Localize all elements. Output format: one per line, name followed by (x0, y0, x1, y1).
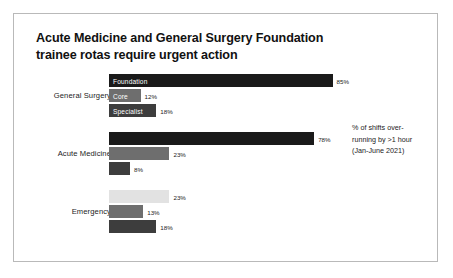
bar-foundation (109, 132, 314, 145)
bar-group: General SurgeryFoundation85%Core12%Speci… (14, 74, 439, 119)
chart-title: Acute Medicine and General Surgery Found… (36, 30, 366, 65)
bar-group: Emergency23%13%18% (14, 190, 439, 235)
bar-series-label: Foundation (113, 77, 148, 84)
bar-core (109, 205, 143, 218)
bar-series-label: Specialist (113, 107, 143, 114)
bar-row: 13% (109, 205, 143, 218)
bar-value-label: 78% (314, 135, 330, 142)
category-label-general-surgery: General Surgery (0, 91, 111, 100)
chart-title-line-1: Acute Medicine and General Surgery Found… (36, 30, 366, 47)
category-label-emergency: Emergency (0, 207, 111, 216)
bar-specialist (109, 162, 130, 175)
bar-value-label: 12% (141, 92, 157, 99)
bar-row: Foundation85% (109, 74, 333, 87)
bar-value-label: 23% (169, 150, 185, 157)
bar-core (109, 147, 169, 160)
annotation-line-2: running by >1 hour (352, 134, 438, 146)
bar-value-label: 85% (333, 77, 349, 84)
bar-value-label: 13% (143, 208, 159, 215)
bar-row: Specialist18% (109, 104, 156, 117)
annotation-line-1: % of shifts over- (352, 122, 438, 134)
bar-row: 23% (109, 147, 169, 160)
bar-value-label: 23% (169, 193, 185, 200)
bar-row: 18% (109, 220, 156, 233)
chart-card: Acute Medicine and General Surgery Found… (13, 13, 438, 262)
chart-annotation: % of shifts over- running by >1 hour (Ja… (352, 122, 438, 157)
bar-foundation (109, 190, 169, 203)
bar-chart-plot-area: General SurgeryFoundation85%Core12%Speci… (14, 74, 439, 254)
bar-foundation: Foundation (109, 74, 333, 87)
bar-row: 23% (109, 190, 169, 203)
bar-row: Core12% (109, 89, 141, 102)
bar-row: 8% (109, 162, 130, 175)
bar-specialist (109, 220, 156, 233)
bar-row: 78% (109, 132, 314, 145)
bar-value-label: 18% (156, 223, 172, 230)
bar-value-label: 8% (130, 165, 143, 172)
category-label-acute-medicine: Acute Medicine (0, 149, 111, 158)
chart-title-line-2: trainee rotas require urgent action (36, 47, 366, 64)
bar-value-label: 18% (156, 107, 172, 114)
annotation-line-3: (Jan-June 2021) (352, 145, 438, 157)
bar-series-label: Core (113, 92, 128, 99)
bar-core: Core (109, 89, 141, 102)
bar-specialist: Specialist (109, 104, 156, 117)
